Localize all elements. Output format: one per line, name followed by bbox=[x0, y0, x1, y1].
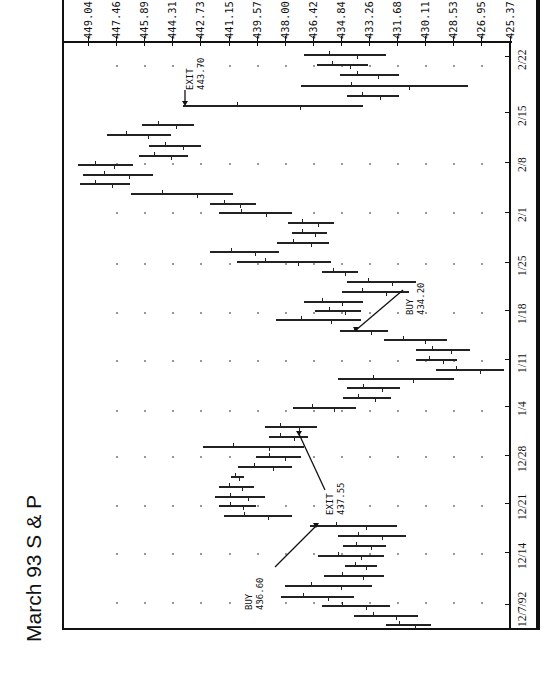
annotation-buy: BUY434.20 bbox=[405, 282, 427, 315]
exit-arrow-head bbox=[182, 101, 188, 106]
annotation-exit: EXIT437.55 bbox=[325, 482, 347, 515]
buy-arrow-line bbox=[356, 290, 403, 330]
annotation-buy: BUY436.60 bbox=[244, 577, 266, 610]
buy-arrow-head bbox=[353, 327, 359, 332]
buy-arrow-line bbox=[275, 526, 316, 567]
annotation-arrows bbox=[0, 0, 559, 676]
exit-arrow-head bbox=[296, 431, 302, 436]
exit-arrow-line bbox=[299, 434, 325, 490]
annotation-exit: EXIT443.70 bbox=[185, 57, 207, 90]
